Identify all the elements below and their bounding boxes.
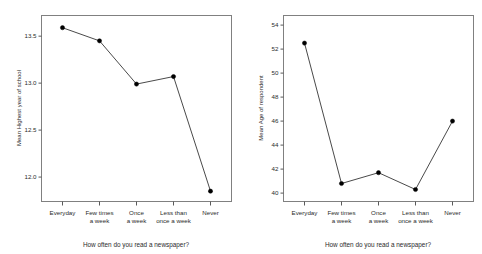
- x-tick-label: Less than: [160, 209, 187, 216]
- y-tick-label: 13.5: [24, 32, 37, 39]
- data-point: [60, 26, 64, 30]
- y-tick-label: 13.0: [24, 79, 37, 86]
- y-tick-label: 48: [272, 93, 279, 100]
- data-point: [413, 187, 417, 191]
- x-axis-tick-labels: EverydayFew timesa weekOncea weekLess th…: [50, 209, 219, 224]
- x-tick-label: Once: [129, 209, 144, 216]
- y-tick-label: 44: [272, 141, 279, 148]
- x-tick-label: Few times: [327, 209, 355, 216]
- x-tick-label: Once: [371, 209, 386, 216]
- x-tick-label: a week: [332, 217, 353, 224]
- data-point: [339, 181, 343, 185]
- x-tick-label: a week: [369, 217, 390, 224]
- x-axis-title: How often do you read a newspaper?: [83, 241, 190, 249]
- y-tick-label: 54: [272, 21, 279, 28]
- plot-frame: [42, 16, 232, 202]
- y-axis-ticks: 4042444648505254: [272, 21, 284, 196]
- y-axis-title: Mean Highest year of school: [16, 70, 22, 146]
- x-axis-tick-labels: EverydayFew timesa weekOncea weekLess th…: [292, 209, 461, 224]
- data-point: [302, 41, 306, 45]
- age-line-chart: 4042444648505254 EverydayFew timesa week…: [241, 0, 482, 254]
- chart-panel-education: 12.012.513.013.5 EverydayFew timesa week…: [0, 0, 241, 254]
- x-tick-label: Less than: [402, 209, 429, 216]
- y-tick-label: 42: [272, 165, 279, 172]
- x-tick-label: once a week: [398, 217, 434, 224]
- data-point: [376, 171, 380, 175]
- y-tick-label: 52: [272, 45, 279, 52]
- x-tick-label: once a week: [156, 217, 192, 224]
- data-point: [97, 39, 101, 43]
- y-tick-label: 46: [272, 117, 279, 124]
- x-tick-label: Never: [444, 209, 461, 216]
- x-tick-label: Never: [202, 209, 219, 216]
- x-tick-label: Everyday: [50, 209, 77, 216]
- y-tick-label: 50: [272, 69, 279, 76]
- chart-panel-age: 4042444648505254 EverydayFew timesa week…: [241, 0, 482, 254]
- x-tick-label: a week: [127, 217, 148, 224]
- y-tick-label: 12.0: [24, 173, 37, 180]
- x-tick-label: a week: [90, 217, 111, 224]
- x-tick-label: Few times: [85, 209, 113, 216]
- data-point: [171, 74, 175, 78]
- education-line-chart: 12.012.513.013.5 EverydayFew timesa week…: [0, 0, 241, 254]
- x-axis-ticks: [63, 202, 211, 206]
- x-axis-title: How often do you read a newspaper?: [325, 241, 432, 249]
- y-tick-label: 12.5: [24, 126, 37, 133]
- x-axis-ticks: [305, 202, 453, 206]
- data-point: [134, 82, 138, 86]
- y-axis-ticks: 12.012.513.013.5: [24, 32, 41, 180]
- y-tick-label: 40: [272, 189, 279, 196]
- x-tick-label: Everyday: [292, 209, 319, 216]
- data-point: [450, 119, 454, 123]
- data-point: [208, 189, 212, 193]
- y-axis-title: Mean Age of respondent: [258, 75, 264, 141]
- figure-container: 12.012.513.013.5 EverydayFew timesa week…: [0, 0, 482, 254]
